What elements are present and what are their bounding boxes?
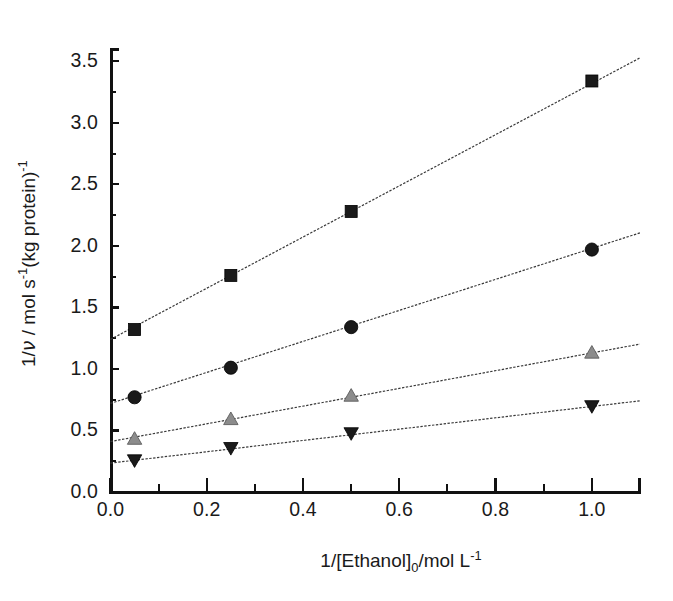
y-title-prefix: 1/ <box>18 351 39 367</box>
y-tick-major <box>110 183 119 185</box>
y-tick-minor <box>110 153 116 155</box>
regression-line <box>111 401 641 463</box>
y-tick-label: 0.0 <box>6 482 98 502</box>
marker-circle <box>128 391 141 404</box>
x-title-mid: /mol L <box>418 550 470 571</box>
marker-square <box>129 324 141 336</box>
series-group-4 <box>111 401 641 468</box>
x-tick-minor <box>254 484 256 492</box>
marker-square <box>345 205 357 217</box>
y-title-tail: (kg protein) <box>18 172 39 268</box>
marker-triangle-down <box>344 428 358 441</box>
marker-triangle-down <box>224 443 238 456</box>
x-tick-label: 0.8 <box>466 500 526 520</box>
y-tick-minor <box>110 214 116 216</box>
x-tick-major <box>591 478 593 492</box>
x-tick-major <box>109 478 111 492</box>
marker-square <box>586 75 598 87</box>
y-title-nu: ν <box>17 341 39 352</box>
marker-square <box>225 269 237 281</box>
x-tick-minor <box>446 484 448 492</box>
y-title-sup-2: -1 <box>15 160 30 171</box>
x-tick-minor <box>543 484 545 492</box>
y-axis-title: 1/ν / mol s-1(kg protein)-1 <box>16 64 39 464</box>
marker-circle <box>585 243 598 256</box>
y-tick-major <box>110 368 119 370</box>
y-tick-major <box>110 429 119 431</box>
y-tick-minor <box>110 460 116 462</box>
y-tick-minor <box>110 91 116 93</box>
x-tick-label: 0.0 <box>81 500 141 520</box>
x-tick-label: 0.4 <box>273 500 333 520</box>
marker-triangle-up <box>127 432 141 445</box>
x-tick-label: 0.6 <box>369 500 429 520</box>
x-tick-major <box>494 478 496 492</box>
marker-triangle-down <box>127 455 141 468</box>
y-title-mid: / mol s <box>18 279 39 340</box>
y-tick-major <box>110 245 119 247</box>
y-tick-minor <box>110 276 116 278</box>
y-tick-major <box>110 122 119 124</box>
regression-line <box>111 58 641 340</box>
series-group-3 <box>111 344 641 444</box>
y-tick-minor <box>110 399 116 401</box>
marker-triangle-up <box>224 412 238 425</box>
x-axis-title: 1/[Ethanol]0/mol L-1 <box>136 548 666 575</box>
y-tick-major <box>110 60 119 62</box>
marker-triangle-down <box>585 401 599 414</box>
x-tick-label: 1.0 <box>562 500 622 520</box>
x-axis-line <box>109 491 641 494</box>
x-title-sup: -1 <box>470 548 481 563</box>
series-group-1 <box>111 58 641 340</box>
marker-circle <box>345 321 358 334</box>
x-tick-minor <box>350 484 352 492</box>
x-tick-minor <box>158 484 160 492</box>
x-tick-major <box>302 478 304 492</box>
series-group-2 <box>111 233 641 404</box>
y-tick-minor <box>110 337 116 339</box>
y-title-sup-1: -1 <box>15 268 30 279</box>
y-axis-line <box>110 48 113 494</box>
x-tick-major <box>206 478 208 492</box>
x-tick-major <box>398 478 400 492</box>
x-tick-label: 0.2 <box>177 500 237 520</box>
x-axis-right-cap <box>638 478 641 493</box>
figure-canvas: 0.00.51.01.52.02.53.03.50.00.20.40.60.81… <box>0 0 673 601</box>
regression-line <box>111 344 641 441</box>
y-axis-top-cap <box>110 48 119 51</box>
regression-line <box>111 233 641 404</box>
y-tick-major <box>110 306 119 308</box>
marker-circle <box>224 361 237 374</box>
marker-triangle-up <box>585 346 599 359</box>
marker-triangle-up <box>344 389 358 402</box>
x-title-prefix: 1/[Ethanol] <box>320 550 411 571</box>
